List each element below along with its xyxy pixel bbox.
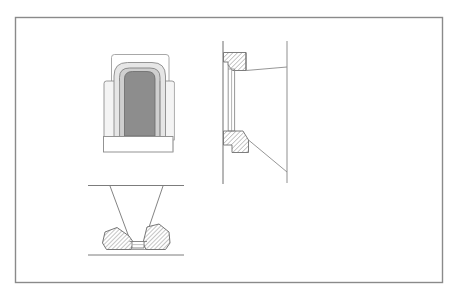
drawing-page: Technical Drawing Plate — [0, 0, 459, 300]
arch-opening-core — [125, 72, 156, 137]
page-background — [0, 0, 459, 300]
base-plate — [104, 137, 174, 153]
view-front-elevation — [104, 55, 175, 153]
technical-drawing-canvas — [0, 0, 459, 300]
